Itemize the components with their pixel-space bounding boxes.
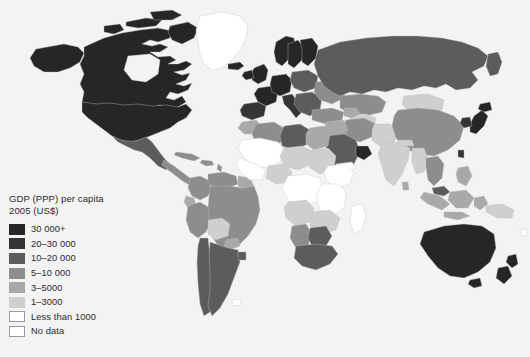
legend-swatch [9, 311, 25, 322]
legend-label: 10–20 000 [31, 253, 76, 263]
world-map-figure: GDP (PPP) per capita 2005 (US$) 30 000+2… [0, 0, 530, 357]
legend-entry: No data [9, 324, 144, 339]
legend-entry-list: 30 000+20–30 00010–20 0005–10 0003–50001… [9, 222, 144, 339]
legend-swatch [9, 326, 25, 337]
legend-entry: 10–20 000 [9, 251, 144, 266]
region-russia [314, 36, 488, 96]
legend-entry: 3–5000 [9, 280, 144, 295]
legend-entry: 5–10 000 [9, 266, 144, 281]
region-falklands [232, 299, 241, 306]
legend-swatch [9, 268, 25, 279]
legend-label: 30 000+ [31, 224, 66, 234]
region-nepal-bhutan [398, 140, 414, 146]
legend-label: 20–30 000 [31, 239, 76, 249]
region-egypt [306, 126, 330, 150]
region-fiji [520, 229, 527, 236]
legend-swatch [9, 224, 25, 235]
legend-entry: 30 000+ [9, 222, 144, 237]
legend-label: 5–10 000 [31, 268, 71, 278]
region-uruguay [238, 252, 246, 260]
legend-label: No data [31, 326, 64, 336]
legend-swatch [9, 253, 25, 264]
region-sri-lanka [402, 182, 409, 190]
legend-swatch [9, 238, 25, 249]
legend-entry: 1–3000 [9, 295, 144, 310]
legend-label: 3–5000 [31, 283, 63, 293]
legend-label: 1–3000 [31, 297, 63, 307]
legend-title: GDP (PPP) per capita 2005 (US$) [9, 193, 144, 216]
legend-swatch [9, 297, 25, 308]
legend-entry: Less than 1000 [9, 310, 144, 325]
region-germany-benelux [270, 74, 292, 96]
region-taiwan [458, 150, 464, 158]
legend-entry: 20–30 000 [9, 237, 144, 252]
map-legend: GDP (PPP) per capita 2005 (US$) 30 000+2… [9, 193, 144, 339]
legend-swatch [9, 282, 25, 293]
legend-label: Less than 1000 [31, 312, 96, 322]
